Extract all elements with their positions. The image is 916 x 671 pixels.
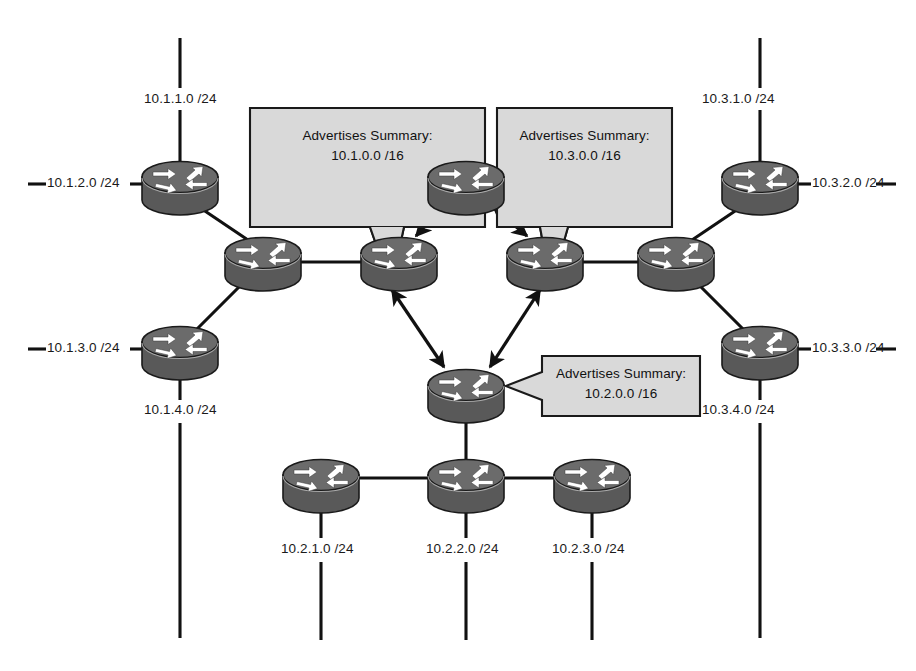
area2-router-right[interactable] (554, 460, 630, 514)
area2-router-center[interactable] (428, 460, 504, 514)
callout-area1-line1: Advertises Summary: (250, 126, 485, 146)
area3-router-bottom[interactable] (722, 327, 798, 381)
label-10-1-1-0: 10.1.1.0 /24 (144, 91, 217, 106)
area1-router-top[interactable] (142, 162, 218, 216)
area3-abr-router[interactable] (507, 238, 583, 292)
callout-area3: Advertises Summary: 10.3.0.0 /16 (497, 126, 672, 165)
label-10-1-4-0: 10.1.4.0 /24 (144, 402, 217, 417)
label-10-3-3-0: 10.3.3.0 /24 (812, 340, 885, 355)
arrow-a3abr-a2abr (490, 290, 540, 367)
callout-area2-line1: Advertises Summary: (542, 364, 700, 384)
area1-abr-router[interactable] (361, 238, 437, 292)
label-10-2-2-0: 10.2.2.0 /24 (426, 541, 499, 556)
label-10-2-3-0: 10.2.3.0 /24 (552, 541, 625, 556)
arrow-a1abr-a2abr (392, 290, 444, 367)
area1-router-bottom[interactable] (142, 327, 218, 381)
area1-router-mid[interactable] (225, 238, 301, 292)
callout-area3-line2: 10.3.0.0 /16 (497, 146, 672, 166)
label-10-3-4-0: 10.3.4.0 /24 (702, 402, 775, 417)
callout-area1: Advertises Summary: 10.1.0.0 /16 (250, 126, 485, 165)
label-10-1-3-0: 10.1.3.0 /24 (47, 340, 120, 355)
area3-router-top[interactable] (722, 162, 798, 216)
area2-router-left[interactable] (283, 460, 359, 514)
label-10-3-2-0: 10.3.2.0 /24 (812, 175, 885, 190)
label-10-1-2-0: 10.1.2.0 /24 (47, 175, 120, 190)
area3-router-mid[interactable] (638, 238, 714, 292)
callout-area2: Advertises Summary: 10.2.0.0 /16 (542, 364, 700, 403)
backbone-core-router[interactable] (428, 162, 504, 216)
topology-svg (0, 0, 916, 671)
area2-abr-router[interactable] (428, 370, 504, 424)
callout-area2-line2: 10.2.0.0 /16 (542, 384, 700, 404)
callout-area3-line1: Advertises Summary: (497, 126, 672, 146)
router-layer (142, 162, 798, 514)
label-10-3-1-0: 10.3.1.0 /24 (702, 91, 775, 106)
network-diagram-canvas: 10.1.1.0 /24 10.1.2.0 /24 10.1.3.0 /24 1… (0, 0, 916, 671)
label-10-2-1-0: 10.2.1.0 /24 (281, 541, 354, 556)
callout-area1-line2: 10.1.0.0 /16 (250, 146, 485, 166)
